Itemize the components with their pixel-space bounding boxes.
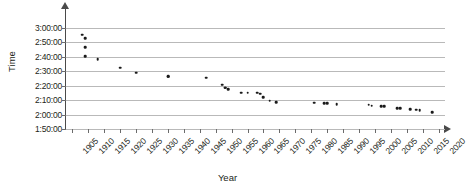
data-point	[262, 96, 265, 99]
x-tick-label: 1930	[160, 136, 180, 156]
x-tick-mark	[216, 129, 217, 133]
y-tick-mark	[62, 86, 66, 87]
x-tick-mark	[104, 129, 105, 133]
data-point	[240, 91, 243, 94]
data-point	[418, 109, 421, 112]
x-tick-mark	[439, 129, 440, 133]
x-tick-label: 2020	[447, 136, 467, 156]
data-point	[409, 108, 412, 111]
data-point	[227, 88, 230, 91]
x-tick-mark	[200, 129, 201, 133]
y-tick-label: 2:00:00	[35, 110, 62, 120]
data-point	[167, 75, 170, 78]
plot-area	[66, 28, 445, 129]
x-tick-mark	[311, 129, 312, 133]
x-tick-label: 2010	[415, 136, 435, 156]
y-tick-mark	[62, 42, 66, 43]
data-point	[399, 107, 402, 110]
y-axis-labels: 1:50:002:00:002:10:002:20:002:30:002:40:…	[0, 0, 62, 191]
x-tick-mark	[263, 129, 264, 133]
x-tick-label: 1945	[208, 136, 228, 156]
data-point	[84, 55, 87, 58]
gridline	[66, 86, 445, 87]
data-point	[275, 101, 278, 104]
y-tick-label: 2:50:00	[35, 37, 62, 47]
y-tick-label: 3:00:00	[35, 23, 62, 33]
y-tick-mark	[62, 100, 66, 101]
x-tick-mark	[136, 129, 137, 133]
x-axis-arrow-icon	[444, 125, 451, 133]
gridline	[66, 115, 445, 116]
x-tick-mark	[375, 129, 376, 133]
data-point	[224, 86, 227, 89]
data-point	[81, 33, 84, 36]
x-tick-label: 1950	[224, 136, 244, 156]
gridline	[66, 71, 445, 72]
y-tick-mark	[62, 57, 66, 58]
data-point	[84, 37, 87, 40]
x-tick-label: 2005	[399, 136, 419, 156]
y-tick-label: 2:20:00	[35, 81, 62, 91]
x-tick-label: 1955	[240, 136, 260, 156]
y-tick-label: 2:10:00	[35, 95, 62, 105]
x-tick-mark	[279, 129, 280, 133]
data-point	[383, 105, 386, 108]
x-tick-mark	[72, 129, 73, 133]
gridline	[66, 57, 445, 58]
x-tick-mark	[88, 129, 89, 133]
data-point	[205, 76, 208, 79]
data-point	[119, 66, 122, 69]
x-tick-mark	[359, 129, 360, 133]
data-point	[335, 103, 338, 106]
gridline	[66, 42, 445, 43]
x-tick-mark	[407, 129, 408, 133]
x-tick-mark	[327, 129, 328, 133]
data-point	[221, 83, 224, 86]
data-point	[431, 111, 434, 114]
y-axis-arrow-icon	[61, 2, 69, 9]
x-axis-title: Year	[0, 172, 455, 183]
gridline	[66, 28, 445, 29]
x-tick-mark	[295, 129, 296, 133]
x-tick-label: 1935	[176, 136, 196, 156]
data-point	[135, 71, 138, 74]
gridline	[66, 100, 445, 101]
y-tick-label: 2:30:00	[35, 66, 62, 76]
x-tick-label: 2015	[431, 136, 451, 156]
x-tick-mark	[248, 129, 249, 133]
y-tick-label: 2:40:00	[35, 52, 62, 62]
gridline	[66, 129, 445, 130]
x-tick-mark	[343, 129, 344, 133]
data-point	[313, 101, 316, 104]
data-point	[84, 46, 87, 49]
y-tick-mark	[62, 28, 66, 29]
x-tick-mark	[152, 129, 153, 133]
x-tick-mark	[184, 129, 185, 133]
data-point	[97, 58, 100, 61]
x-tick-mark	[120, 129, 121, 133]
data-point	[370, 104, 373, 107]
data-point	[246, 91, 249, 94]
x-tick-mark	[423, 129, 424, 133]
data-point	[259, 92, 262, 95]
x-tick-mark	[168, 129, 169, 133]
y-tick-mark	[62, 129, 66, 130]
y-tick-label: 1:50:00	[35, 124, 62, 134]
data-point	[326, 102, 329, 105]
x-tick-label: 1940	[192, 136, 212, 156]
y-tick-mark	[62, 115, 66, 116]
data-point	[269, 99, 272, 102]
x-tick-mark	[232, 129, 233, 133]
x-tick-mark	[391, 129, 392, 133]
y-tick-mark	[62, 71, 66, 72]
x-tick-label: 2000	[383, 136, 403, 156]
